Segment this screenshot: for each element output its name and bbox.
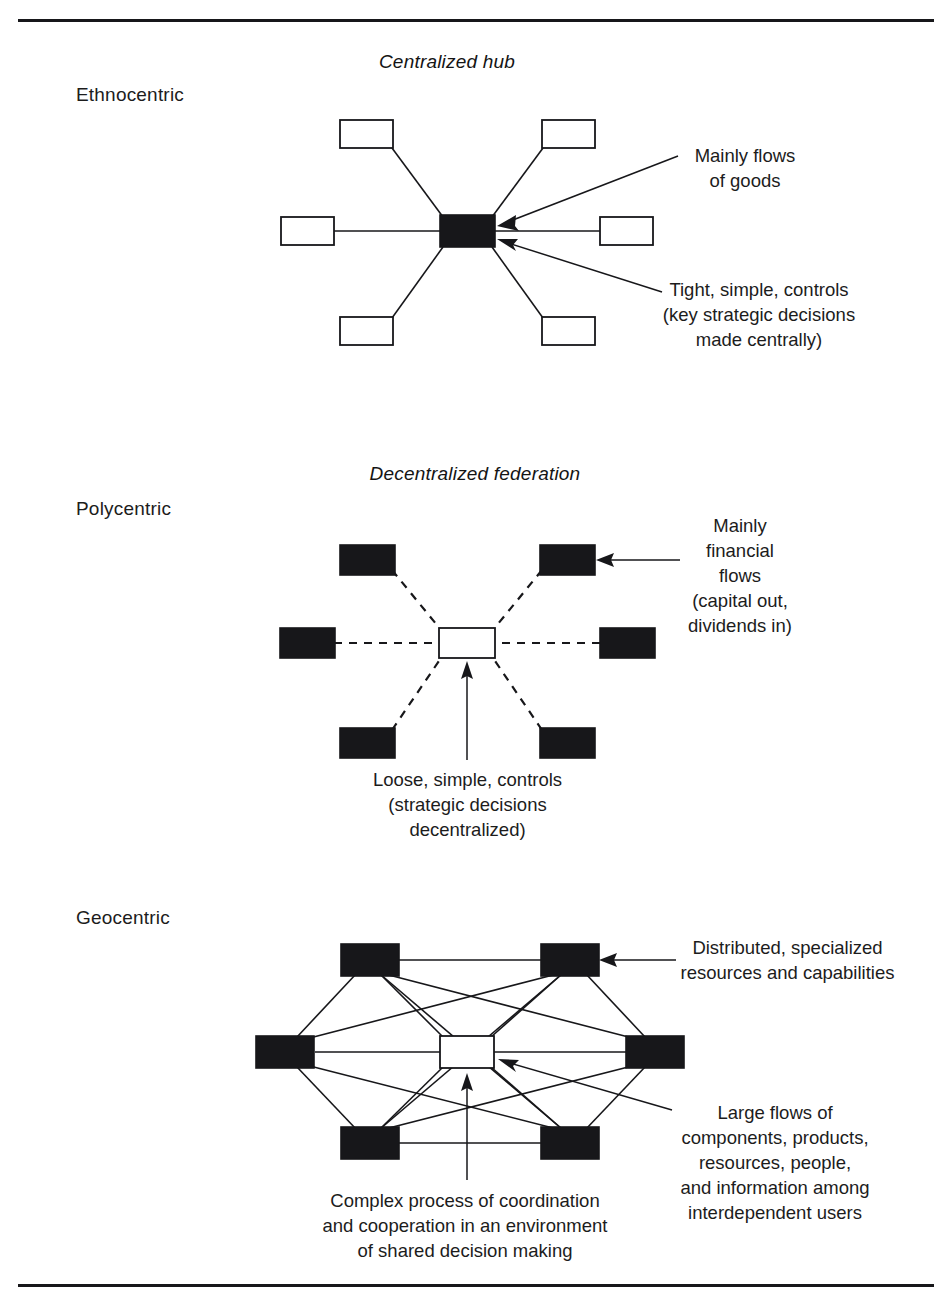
annotation-complex-process: Complex process of coordination and coop… [280,1188,650,1263]
node-filled [341,1127,399,1159]
annotation-distributed-resources: Distributed, specialized resources and c… [655,935,920,985]
node-filled [541,944,599,976]
center-node-open [440,1036,494,1068]
node-filled [256,1036,314,1068]
node-filled [626,1036,684,1068]
node-filled [341,944,399,976]
leader-complex-process [461,1073,473,1180]
figure-page: Ethnocentric Centralized hub [0,0,951,1304]
annotation-large-flows: Large flows of components, products, res… [645,1100,905,1225]
node-filled [541,1127,599,1159]
